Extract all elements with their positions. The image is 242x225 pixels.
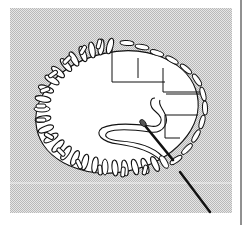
stitch-diagram: [0, 0, 242, 225]
